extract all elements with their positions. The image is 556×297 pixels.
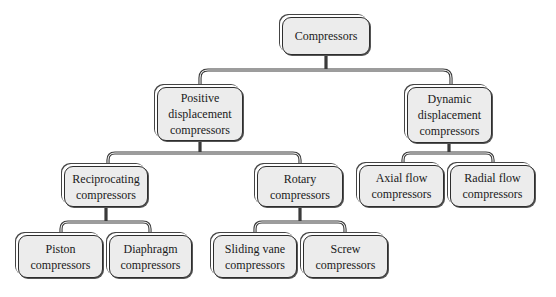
node-positive-displacement-compressors: Positive displacement compressors <box>157 87 243 141</box>
node-label-line1: Dynamic <box>428 91 472 107</box>
node-label-line1: Diaphragm <box>124 241 178 257</box>
node-label-line2: displacement <box>168 106 231 122</box>
node-axial-flow-compressors: Axial flow compressors <box>359 165 444 207</box>
node-label-line2: compressors <box>76 187 136 203</box>
node-label-line2: compressors <box>372 186 432 202</box>
node-label-line3: compressors <box>170 122 230 138</box>
node-reciprocating-compressors: Reciprocating compressors <box>64 166 148 207</box>
node-label-line2: compressors <box>121 257 181 273</box>
node-radial-flow-compressors: Radial flow compressors <box>450 165 535 207</box>
node-label-line1: Sliding vane <box>225 241 285 257</box>
node-label-line2: compressors <box>225 257 285 273</box>
node-label-line2: compressors <box>316 257 376 273</box>
node-label-line1: Reciprocating <box>72 171 139 187</box>
node-label-line1: Rotary <box>284 171 317 187</box>
node-label-line1: Screw <box>331 241 361 257</box>
node-label-line3: compressors <box>420 123 480 139</box>
node-label-line1: Positive <box>181 90 220 106</box>
node-piston-compressors: Piston compressors <box>18 235 103 278</box>
node-label-line1: Axial flow <box>376 170 428 186</box>
node-label-line1: Piston <box>45 241 75 257</box>
node-rotary-compressors: Rotary compressors <box>257 166 343 207</box>
node-label-line2: compressors <box>270 187 330 203</box>
node-diaphragm-compressors: Diaphragm compressors <box>109 235 192 278</box>
node-dynamic-displacement-compressors: Dynamic displacement compressors <box>407 87 492 143</box>
node-label-line2: compressors <box>31 257 91 273</box>
compressor-classification-diagram: Compressors Positive displacement compre… <box>0 0 556 297</box>
node-label-line1: Radial flow <box>464 170 520 186</box>
node-label: Compressors <box>295 28 358 44</box>
node-label-line2: compressors <box>463 186 523 202</box>
node-label-line2: displacement <box>418 107 481 123</box>
node-compressors: Compressors <box>282 17 370 55</box>
node-screw-compressors: Screw compressors <box>303 235 388 278</box>
node-sliding-vane-compressors: Sliding vane compressors <box>213 235 297 278</box>
